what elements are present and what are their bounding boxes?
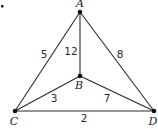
node-c bbox=[13, 109, 18, 114]
weighted-graph-diagram: A B C D 5 12 8 3 7 2 bbox=[0, 0, 158, 129]
weight-label-b-c: 3 bbox=[51, 92, 58, 104]
node-label-d: D bbox=[148, 115, 158, 128]
edge-a-d bbox=[80, 12, 154, 111]
weight-label-a-b: 12 bbox=[64, 45, 77, 57]
weight-label-a-c: 5 bbox=[41, 48, 48, 60]
edge-b-d bbox=[80, 76, 154, 111]
node-label-b: B bbox=[74, 79, 83, 92]
node-label-c: C bbox=[10, 115, 19, 128]
weight-label-a-d: 8 bbox=[117, 48, 124, 60]
corner-mark bbox=[1, 5, 4, 8]
node-b bbox=[78, 74, 83, 79]
edge-b-c bbox=[15, 76, 80, 111]
node-d bbox=[152, 109, 157, 114]
edge-a-c bbox=[15, 12, 80, 111]
weight-label-b-d: 7 bbox=[104, 92, 111, 104]
weight-label-c-d: 2 bbox=[81, 112, 88, 124]
node-a bbox=[78, 10, 83, 15]
node-label-a: A bbox=[75, 0, 84, 10]
